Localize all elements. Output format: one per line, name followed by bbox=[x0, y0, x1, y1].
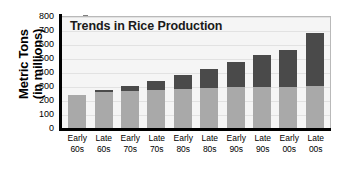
x-axis-tick-label-line1: Late bbox=[250, 133, 276, 144]
x-axis-tick-label: Late70s bbox=[144, 133, 170, 165]
x-axis-tick-label-line1: Late bbox=[91, 133, 117, 144]
bar[interactable] bbox=[121, 86, 139, 128]
y-axis-tick-label: 300 bbox=[28, 81, 54, 91]
bar-segment-lower bbox=[200, 88, 218, 128]
x-axis-tick-label-line1: Early bbox=[276, 133, 302, 144]
bar-segment-lower bbox=[68, 95, 86, 128]
y-axis-tick-label: 0 bbox=[28, 123, 54, 133]
x-axis-tick-label: Early00s bbox=[276, 133, 302, 165]
bar-segment-upper bbox=[174, 75, 192, 89]
x-axis-tick-label: Late90s bbox=[250, 133, 276, 165]
y-axis-tick-label: 500 bbox=[28, 53, 54, 63]
bar[interactable] bbox=[306, 33, 324, 128]
x-axis-tick-label-line2: 90s bbox=[223, 144, 249, 155]
chart-title: Trends in Rice Production bbox=[70, 19, 222, 33]
x-axis-tick-label: Early60s bbox=[64, 133, 90, 165]
x-axis-tick-label: Late60s bbox=[91, 133, 117, 165]
bar[interactable] bbox=[174, 75, 192, 128]
x-axis-tick-label-line1: Late bbox=[144, 133, 170, 144]
x-axis-tick-label-line2: 70s bbox=[117, 144, 143, 155]
x-axis-tick-label: Early90s bbox=[223, 133, 249, 165]
x-axis-tick-label: Late00s bbox=[303, 133, 329, 165]
x-axis-tick-label: Early80s bbox=[170, 133, 196, 165]
bar-series-group bbox=[62, 17, 330, 128]
x-axis-tick-label-line2: 60s bbox=[64, 144, 90, 155]
chart-figure: Metric Tons (in millions) 01002003004005… bbox=[0, 0, 339, 172]
x-axis-tick-label-line1: Early bbox=[117, 133, 143, 144]
y-axis-tick-label: 200 bbox=[28, 95, 54, 105]
bar[interactable] bbox=[95, 90, 113, 128]
x-axis-tick-label: Early70s bbox=[117, 133, 143, 165]
x-axis-tick-labels: Early60sLate60sEarly70sLate70sEarly80sLa… bbox=[62, 133, 331, 165]
bar[interactable] bbox=[200, 69, 218, 128]
bar[interactable] bbox=[227, 62, 245, 128]
y-axis-tick-label: 400 bbox=[28, 67, 54, 77]
x-axis-tick-label: Late80s bbox=[197, 133, 223, 165]
x-axis-line bbox=[59, 128, 331, 131]
y-axis-tick-labels: 0100200300400500600700800 bbox=[28, 10, 54, 132]
y-axis-tick-label: 800 bbox=[28, 11, 54, 21]
y-axis-tick-label: 100 bbox=[28, 109, 54, 119]
bar-segment-lower bbox=[121, 91, 139, 128]
bar-segment-upper bbox=[227, 62, 245, 88]
bar[interactable] bbox=[253, 55, 271, 128]
bar-segment-lower bbox=[306, 86, 324, 128]
bar-segment-lower bbox=[279, 87, 297, 128]
bar-segment-upper bbox=[200, 69, 218, 89]
x-axis-tick-label-line2: 80s bbox=[170, 144, 196, 155]
y-axis-tick-label: 600 bbox=[28, 39, 54, 49]
bar-segment-upper bbox=[279, 50, 297, 86]
x-axis-tick-label-line2: 80s bbox=[197, 144, 223, 155]
x-axis-tick-label-line2: 00s bbox=[276, 144, 302, 155]
x-axis-tick-label-line2: 60s bbox=[91, 144, 117, 155]
bar-segment-lower bbox=[95, 92, 113, 128]
x-axis-tick-label-line2: 90s bbox=[250, 144, 276, 155]
x-axis-tick-label-line2: 00s bbox=[303, 144, 329, 155]
bar-segment-lower bbox=[227, 87, 245, 128]
bar-segment-lower bbox=[253, 87, 271, 128]
bar-segment-lower bbox=[147, 90, 165, 129]
y-axis-tick-label: 700 bbox=[28, 25, 54, 35]
x-axis-tick-label-line1: Early bbox=[64, 133, 90, 144]
bar[interactable] bbox=[279, 50, 297, 128]
bar-segment-upper bbox=[306, 33, 324, 86]
bar[interactable] bbox=[147, 81, 165, 128]
bar-segment-lower bbox=[174, 89, 192, 128]
bar-segment-upper bbox=[147, 81, 165, 89]
x-axis-tick-label-line1: Late bbox=[303, 133, 329, 144]
x-axis-tick-label-line1: Early bbox=[170, 133, 196, 144]
x-axis-tick-label-line2: 70s bbox=[144, 144, 170, 155]
bar[interactable] bbox=[68, 95, 86, 128]
x-axis-tick-label-line1: Late bbox=[197, 133, 223, 144]
bar-segment-upper bbox=[253, 55, 271, 87]
x-axis-tick-label-line1: Early bbox=[223, 133, 249, 144]
